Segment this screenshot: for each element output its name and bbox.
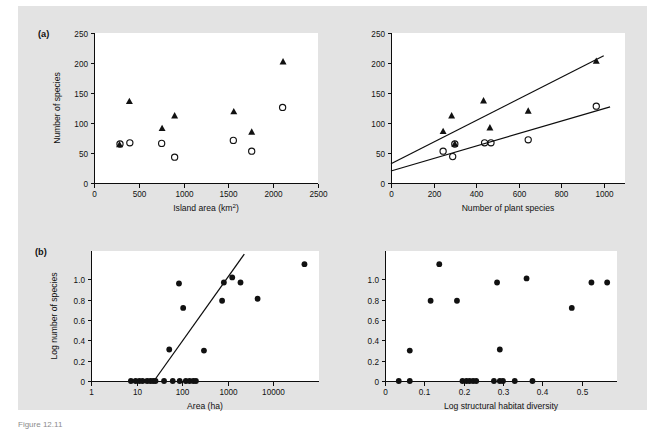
data-point-panel-a-left-circles-3 xyxy=(172,154,178,160)
fit-line-panel-a-right-triangle-fit xyxy=(391,56,604,164)
xtick-label-panel-a-right-2: 400 xyxy=(470,190,484,199)
xaxis-title-panel-b-right: Log structural habitat diversity xyxy=(444,401,559,411)
panel-group-panel-a-right: 05010015020025002004006008001000Number o… xyxy=(371,30,625,214)
panel-group-panel-a-left: 05010015020025005001000150020002500Islan… xyxy=(38,29,328,213)
data-point-panel-b-right-sites-6 xyxy=(473,378,479,384)
ytick-label-panel-b-left-1: 0.2 xyxy=(74,358,86,367)
xtick-label-panel-a-right-3: 600 xyxy=(513,190,527,199)
xtick-label-panel-a-right-1: 200 xyxy=(428,190,442,199)
xtick-label-panel-b-right-0: 0 xyxy=(383,388,388,397)
ytick-label-panel-a-left-1: 50 xyxy=(79,150,89,159)
data-point-panel-b-right-sites-14 xyxy=(428,298,434,304)
data-point-panel-b-right-sites-20 xyxy=(604,280,610,286)
ytick-label-panel-b-right-4: 0.8 xyxy=(368,297,380,306)
chart-svg-layer: 05010015020025005001000150020002500Islan… xyxy=(0,0,665,436)
ytick-label-panel-b-right-3: 0.6 xyxy=(368,317,380,326)
data-point-panel-a-left-triangles-2 xyxy=(159,125,166,131)
xtick-label-panel-a-left-5: 2500 xyxy=(309,190,328,199)
yaxis-title-panel-a-left: Number of species xyxy=(52,72,62,144)
xaxis-title-panel-a-right: Number of plant species xyxy=(462,203,555,213)
data-point-panel-a-left-circles-4 xyxy=(230,137,236,143)
data-point-panel-a-left-circles-2 xyxy=(159,140,165,146)
data-point-panel-a-left-circles-5 xyxy=(249,148,255,154)
data-point-panel-b-left-sites-20 xyxy=(221,280,227,286)
ytick-label-panel-a-left-0: 0 xyxy=(83,180,88,189)
fit-line-panel-b-left-area-fit xyxy=(154,254,244,381)
ytick-label-panel-b-left-5: 1.0 xyxy=(74,276,86,285)
data-point-panel-b-left-sites-9 xyxy=(170,378,176,384)
xtick-label-panel-b-left-4: 10000 xyxy=(262,388,285,397)
ytick-label-panel-b-left-3: 0.6 xyxy=(74,317,86,326)
xtick-label-panel-a-left-0: 0 xyxy=(92,190,97,199)
ytick-label-panel-a-right-1: 50 xyxy=(376,150,386,159)
data-point-panel-b-right-sites-21 xyxy=(436,261,442,267)
xtick-label-panel-a-right-4: 800 xyxy=(555,190,569,199)
ytick-label-panel-a-left-4: 200 xyxy=(74,60,88,69)
data-point-panel-a-right-circles-5 xyxy=(525,137,531,143)
data-point-panel-b-left-sites-17 xyxy=(180,305,186,311)
data-point-panel-b-left-sites-23 xyxy=(255,296,261,302)
data-point-panel-b-right-sites-18 xyxy=(524,276,530,282)
data-point-panel-a-right-circles-0 xyxy=(440,148,446,154)
ytick-label-panel-b-right-2: 0.4 xyxy=(368,337,380,346)
xtick-label-panel-a-right-5: 1000 xyxy=(595,190,614,199)
data-point-panel-b-left-sites-19 xyxy=(219,298,225,304)
data-point-panel-b-right-sites-11 xyxy=(530,378,536,384)
panel-group-panel-b-right: 00.20.40.60.81.000.10.20.30.40.5Log stru… xyxy=(368,251,617,411)
ytick-label-panel-a-left-3: 150 xyxy=(74,90,88,99)
ytick-label-panel-b-right-1: 0.2 xyxy=(368,358,380,367)
data-point-panel-b-right-sites-13 xyxy=(497,347,503,353)
xaxis-title-panel-b-left: Area (ha) xyxy=(187,401,223,411)
data-point-panel-a-left-triangles-4 xyxy=(230,108,237,114)
data-point-panel-b-left-sites-16 xyxy=(176,281,182,287)
xtick-label-panel-a-left-1: 500 xyxy=(133,190,147,199)
data-point-panel-a-left-circles-6 xyxy=(280,104,286,110)
data-point-panel-b-left-sites-8 xyxy=(161,378,167,384)
xtick-label-panel-a-left-4: 2000 xyxy=(264,190,283,199)
data-point-panel-a-right-circles-1 xyxy=(450,154,456,160)
data-point-panel-a-left-triangles-1 xyxy=(126,98,133,104)
ytick-label-panel-a-left-5: 250 xyxy=(74,30,88,39)
panel-label-panel-b-left: (b) xyxy=(35,247,47,257)
data-point-panel-a-right-triangles-1 xyxy=(448,112,455,118)
xtick-label-panel-b-left-2: 100 xyxy=(176,388,190,397)
data-point-panel-a-right-circles-6 xyxy=(593,103,599,109)
data-point-panel-a-left-triangles-3 xyxy=(171,112,178,118)
data-point-panel-b-left-sites-15 xyxy=(166,347,172,353)
data-point-panel-b-left-sites-18 xyxy=(201,348,207,354)
xaxis-title-tail-panel-a-left: ) xyxy=(236,203,239,213)
xtick-label-panel-a-right-0: 0 xyxy=(389,190,394,199)
data-point-panel-b-left-sites-7 xyxy=(153,378,159,384)
axis-spines-panel-b-right xyxy=(386,251,618,382)
data-point-panel-b-right-sites-12 xyxy=(407,348,413,354)
data-point-panel-b-right-sites-17 xyxy=(494,280,500,286)
ytick-label-panel-a-right-0: 0 xyxy=(380,180,385,189)
ytick-label-panel-a-right-2: 100 xyxy=(371,120,385,129)
ytick-label-panel-b-right-0: 0 xyxy=(374,378,379,387)
data-point-panel-b-right-sites-9 xyxy=(500,378,506,384)
data-point-panel-b-right-sites-7 xyxy=(491,378,497,384)
data-point-panel-b-left-sites-24 xyxy=(302,261,308,267)
panel-label-panel-a-left: (a) xyxy=(38,29,49,39)
figure-caption-text: Figure 12.11 xyxy=(18,419,638,431)
xaxis-title-panel-a-left: Island area (km2) xyxy=(173,202,239,213)
ytick-label-panel-a-right-3: 150 xyxy=(371,90,385,99)
ytick-label-panel-b-right-5: 1.0 xyxy=(368,276,380,285)
data-point-panel-b-left-sites-21 xyxy=(229,275,235,281)
data-point-panel-b-right-sites-19 xyxy=(589,280,595,286)
xtick-label-panel-a-left-3: 1500 xyxy=(219,190,238,199)
axis-spines-panel-b-left xyxy=(92,251,320,382)
data-point-panel-b-right-sites-10 xyxy=(512,378,518,384)
ytick-label-panel-a-left-2: 100 xyxy=(74,120,88,129)
data-point-panel-b-right-sites-0 xyxy=(396,378,402,384)
ytick-label-panel-a-right-4: 200 xyxy=(371,60,385,69)
data-point-panel-a-left-triangles-5 xyxy=(248,128,255,134)
data-point-panel-a-right-triangles-5 xyxy=(525,107,532,113)
data-point-panel-a-right-triangles-3 xyxy=(480,97,487,103)
xtick-label-panel-b-right-1: 0.1 xyxy=(419,388,431,397)
xtick-label-panel-b-left-0: 1 xyxy=(89,388,94,397)
panel-group-panel-b-left: 00.20.40.60.81.0110100100010000Area (ha)… xyxy=(35,247,319,411)
xtick-label-panel-b-right-3: 0.3 xyxy=(498,388,510,397)
xtick-label-panel-b-right-5: 0.5 xyxy=(577,388,589,397)
figure-root: 05010015020025005001000150020002500Islan… xyxy=(0,0,665,436)
